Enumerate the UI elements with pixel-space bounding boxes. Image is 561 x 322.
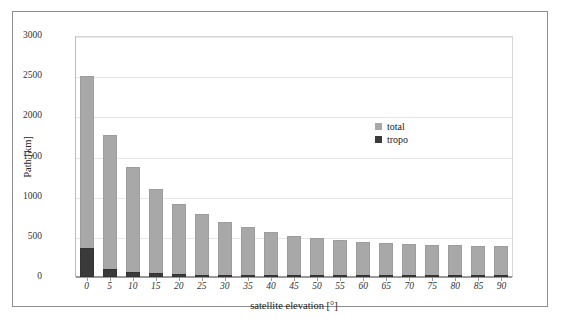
legend-item: tropo	[375, 133, 408, 146]
bar-segment-total	[333, 240, 347, 277]
bar-segment-total	[494, 246, 508, 277]
legend-swatch-icon	[375, 123, 382, 130]
bar-group	[444, 36, 467, 277]
bar-segment-total	[264, 232, 278, 277]
bar-segment-total	[195, 214, 209, 277]
legend-item: total	[375, 120, 408, 133]
bar-segment-total	[103, 135, 117, 277]
bar-segment-total	[149, 189, 163, 277]
y-tick-label: 1500	[0, 152, 42, 162]
bar-group	[121, 36, 144, 277]
bar-segment-total	[425, 245, 439, 277]
bar-series-container	[75, 36, 513, 277]
figure-frame: Path [km] 051015202530354045505560657075…	[12, 11, 548, 307]
bar-group	[467, 36, 490, 277]
y-tick-label: 0	[0, 272, 42, 282]
bar-group	[398, 36, 421, 277]
bar-segment-total	[287, 236, 301, 277]
bar-group	[98, 36, 121, 277]
bar-segment-total	[218, 222, 232, 277]
bar-group	[167, 36, 190, 277]
bar-group	[375, 36, 398, 277]
bar-segment-total	[379, 243, 393, 277]
x-axis-title: satellite elevation [°]	[250, 300, 338, 311]
bar-segment-total	[241, 227, 255, 277]
bar-group	[352, 36, 375, 277]
legend: totaltropo	[375, 120, 408, 146]
figure: Path [km] 051015202530354045505560657075…	[0, 0, 561, 322]
bar-segment-total	[402, 244, 416, 277]
bar-group	[306, 36, 329, 277]
legend-label: tropo	[387, 135, 408, 145]
bar-group	[329, 36, 352, 277]
bar-group	[490, 36, 513, 277]
bar-segment-total	[310, 238, 324, 277]
bar-segment-total	[448, 245, 462, 277]
legend-swatch-icon	[375, 136, 382, 143]
bar-segment-total	[80, 76, 94, 277]
bar-group	[236, 36, 259, 277]
bar-segment-total	[471, 246, 485, 277]
x-tick-label: 90	[481, 282, 521, 292]
y-tick-label: 2500	[0, 71, 42, 81]
bar-group	[144, 36, 167, 277]
bar-segment-tropo	[103, 269, 117, 277]
y-tick-label: 500	[0, 232, 42, 242]
bar-group	[75, 36, 98, 277]
bar-group	[421, 36, 444, 277]
y-tick-label: 1000	[0, 192, 42, 202]
bar-segment-tropo	[80, 248, 94, 277]
bar-segment-total	[172, 204, 186, 278]
bar-group	[282, 36, 305, 277]
legend-label: total	[387, 122, 405, 132]
y-tick-label: 2000	[0, 112, 42, 122]
bar-segment-total	[126, 167, 140, 277]
bar-group	[190, 36, 213, 277]
x-axis: 051015202530354045505560657075808590	[75, 277, 513, 299]
bar-group	[213, 36, 236, 277]
bar-segment-total	[356, 242, 370, 277]
y-tick-label: 3000	[0, 31, 42, 41]
bar-group	[259, 36, 282, 277]
